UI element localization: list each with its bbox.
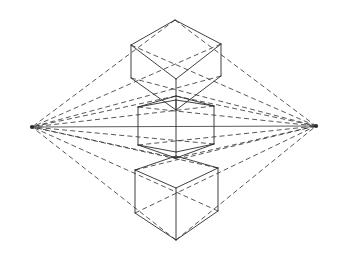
upper-cube-bottom-front-left-edge (131, 78, 176, 110)
lower-cube-top-back-right-edge (176, 156, 218, 168)
construction-rays-group (32, 20, 316, 240)
lower-cube-top-front-left-edge (135, 170, 176, 188)
ray-middle-topleft-to-right-vp (138, 107, 316, 126)
upper-cube-bottom-front-right-edge (176, 76, 221, 110)
upper-cube-top-back-right-edge (175, 20, 221, 44)
upper-cube-top-back-left-edge (131, 20, 175, 45)
ray-lower-topleft-to-right-vp (135, 126, 316, 170)
ray-upper-apex-to-left-vp (32, 20, 175, 127)
ray-middle-topright-to-left-vp (32, 106, 214, 127)
lower-cube-top-back-left-edge (135, 156, 176, 170)
horizon-line (32, 126, 316, 127)
ray-middle-botleft-to-right-vp (138, 126, 316, 145)
ray-middle-topback-to-right-vp (176, 96, 316, 126)
lower-cube (135, 156, 218, 240)
lower-cube-top-front-right-edge (176, 168, 218, 188)
perspective-drawing-canvas (0, 0, 343, 271)
ray-lower-botnose-to-left-vp (32, 127, 176, 240)
ray-middle-topback-to-left-vp (32, 96, 176, 127)
perspective-figure (0, 0, 343, 271)
upper-cube-top-front-right-edge (176, 44, 221, 79)
ray-upper-apex-to-right-vp (175, 20, 316, 126)
right-vanishing-point-marker (314, 124, 318, 128)
left-vanishing-point-marker (30, 125, 34, 129)
ray-upper-botright-to-left-vp (32, 76, 221, 127)
ray-middle-botright-to-left-vp (32, 127, 214, 144)
lower-cube-bottom-front-right-edge (176, 211, 218, 240)
lower-cube-bottom-front-left-edge (135, 213, 176, 240)
